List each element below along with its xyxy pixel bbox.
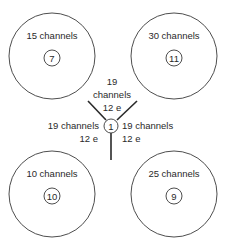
cell-10-channels-label: 10 channels <box>26 168 77 179</box>
cell-11-number: 11 <box>169 53 179 64</box>
top-sector-count: 19 <box>107 76 118 87</box>
cell-channel-diagram: 15 channels 7 30 channels 11 10 channels… <box>0 0 228 251</box>
cell-7-channels-label: 15 channels <box>26 30 77 41</box>
cell-10: 10 channels 10 <box>9 151 95 237</box>
right-sector-erlangs: 12 e <box>122 133 141 144</box>
cell-7-number: 7 <box>49 53 54 64</box>
left-sector-erlangs: 12 e <box>80 133 99 144</box>
center-number: 1 <box>108 121 113 132</box>
top-sector-erlangs: 12 e <box>103 102 122 113</box>
cell-9-channels-label: 25 channels <box>148 168 199 179</box>
cell-7: 15 channels 7 <box>9 13 95 99</box>
cell-11-channels-label: 30 channels <box>148 30 199 41</box>
center-cell-1: 1 19 channels 12 e 19 channels 12 e 19 c… <box>48 76 174 160</box>
cell-11: 30 channels 11 <box>131 13 217 99</box>
right-sector-channels: 19 channels <box>122 120 173 131</box>
cell-9: 25 channels 9 <box>131 151 217 237</box>
cell-9-number: 9 <box>171 191 176 202</box>
left-sector-channels: 19 channels <box>48 120 99 131</box>
top-sector-channels: channels <box>93 89 131 100</box>
cell-10-number: 10 <box>47 191 58 202</box>
